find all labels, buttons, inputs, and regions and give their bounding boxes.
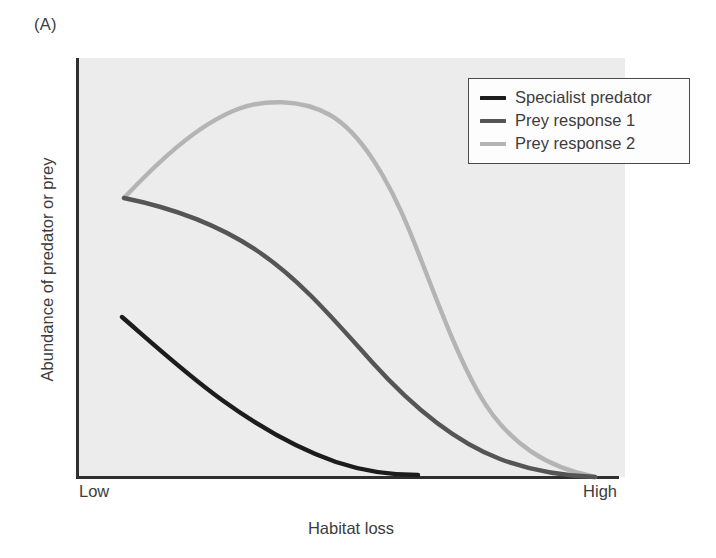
- x-axis-line: [76, 476, 619, 479]
- legend-item-label: Prey response 2: [515, 135, 635, 152]
- legend-box: Specialist predator Prey response 1 Prey…: [468, 78, 690, 164]
- legend-swatch-icon: [480, 119, 506, 123]
- y-axis-line: [76, 58, 79, 479]
- legend-item-prey-response-2: Prey response 2: [480, 132, 679, 155]
- figure-panel-a: (A) Abundance of predator or prey Habita…: [0, 0, 716, 558]
- panel-label: (A): [34, 15, 57, 34]
- y-axis-label: Abundance of predator or prey: [38, 100, 57, 440]
- x-tick-label-high: High: [480, 482, 617, 501]
- x-tick-label-low: Low: [79, 482, 109, 501]
- legend-item-prey-response-1: Prey response 1: [480, 109, 679, 132]
- legend-swatch-icon: [480, 142, 506, 146]
- legend-item-specialist-predator: Specialist predator: [480, 86, 679, 109]
- legend-swatch-icon: [480, 96, 506, 100]
- legend-item-label: Specialist predator: [515, 89, 652, 106]
- legend-item-label: Prey response 1: [515, 112, 635, 129]
- x-axis-label: Habitat loss: [77, 519, 625, 538]
